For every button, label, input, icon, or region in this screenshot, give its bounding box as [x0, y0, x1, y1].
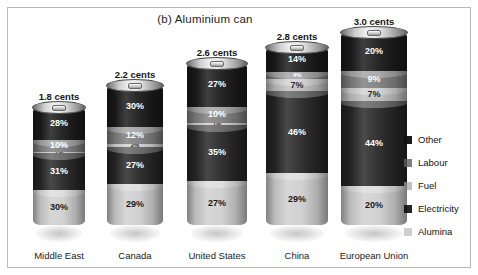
can-pull-tab-icon: [210, 61, 224, 67]
segment-fuel[interactable]: 7%: [341, 88, 407, 102]
segment-labour[interactable]: 12%: [107, 127, 163, 144]
segment-value-label: 35%: [208, 148, 226, 157]
plot-area: 1.8 cents28%10%1%31%30%Middle East2.2 ce…: [14, 26, 396, 244]
segment-value-label: 4%: [293, 72, 302, 78]
segment-alumina[interactable]: 30%: [33, 190, 85, 225]
segment-alumina[interactable]: 20%: [341, 186, 407, 225]
segment-alumina[interactable]: 29%: [107, 184, 163, 225]
can-pull-tab-icon: [367, 30, 381, 36]
segment-labour[interactable]: 9%: [341, 71, 407, 88]
legend-label: Other: [418, 134, 442, 145]
segment-electricity[interactable]: 27%: [107, 147, 163, 185]
bar-canada[interactable]: 2.2 cents30%12%2%27%29%Canada: [107, 82, 163, 244]
segment-value-label: 1%: [55, 152, 64, 153]
segment-value-label: 9%: [367, 75, 380, 84]
bar-shadow: [270, 225, 325, 242]
can-pull-tab-icon: [52, 105, 66, 111]
segment-electricity[interactable]: 46%: [266, 91, 328, 173]
can-lid: [32, 101, 86, 114]
bar-shadow: [191, 225, 244, 242]
segment-value-label: 46%: [288, 128, 306, 137]
segment-electricity[interactable]: 44%: [341, 101, 407, 186]
can-body: 20%9%7%44%20%: [341, 32, 407, 225]
segment-alumina[interactable]: 29%: [266, 173, 328, 225]
segment-value-label: 29%: [126, 200, 144, 209]
legend-label: Electricity: [418, 203, 459, 214]
segment-electricity[interactable]: 31%: [33, 153, 85, 190]
segment-labour[interactable]: 10%: [33, 140, 85, 152]
legend-label: Labour: [418, 157, 448, 168]
segment-value-label: 7%: [290, 81, 303, 90]
segment-value-label: 27%: [126, 161, 144, 170]
segment-labour[interactable]: 4%: [266, 72, 328, 79]
segment-value-label: 44%: [365, 139, 383, 148]
segment-value-label: 31%: [50, 167, 68, 176]
bar-united-states[interactable]: 2.6 cents27%10%1%35%27%United States: [187, 60, 247, 244]
chart-legend: OtherLabourFuelElectricityAlumina: [404, 128, 474, 243]
legend-swatch-icon: [404, 228, 412, 236]
segment-value-label: 2%: [131, 144, 140, 147]
segment-value-label: 20%: [365, 201, 383, 210]
legend-label: Alumina: [418, 226, 452, 237]
segment-alumina[interactable]: 27%: [187, 181, 247, 225]
can-body: 14%4%7%46%29%: [266, 47, 328, 225]
category-label: Middle East: [34, 250, 84, 261]
can-lid: [186, 57, 248, 70]
category-label: China: [285, 250, 310, 261]
segment-value-label: 30%: [50, 203, 68, 212]
segment-fuel[interactable]: 7%: [266, 79, 328, 91]
segment-electricity[interactable]: 35%: [187, 125, 247, 182]
can-lid: [106, 79, 164, 92]
bar-middle-east[interactable]: 1.8 cents28%10%1%31%30%Middle East: [33, 104, 85, 244]
bar-shadow: [110, 225, 159, 242]
can-body: 30%12%2%27%29%: [107, 85, 163, 225]
category-label: United States: [188, 250, 245, 261]
segment-value-label: 29%: [288, 195, 306, 204]
segment-value-label: 20%: [365, 47, 383, 56]
can-lid: [340, 26, 408, 39]
category-label: European Union: [340, 250, 409, 261]
segment-labour[interactable]: 10%: [187, 107, 247, 123]
legend-item-fuel[interactable]: Fuel: [404, 174, 474, 197]
segment-value-label: 27%: [208, 80, 226, 89]
segment-value-label: 10%: [50, 141, 68, 150]
can-body: 27%10%1%35%27%: [187, 63, 247, 225]
legend-item-other[interactable]: Other: [404, 128, 474, 151]
bar-shadow: [345, 225, 403, 242]
can-pull-tab-icon: [290, 45, 304, 51]
chart-figure: (b) Aluminium can 1.8 cents28%10%1%31%30…: [0, 0, 478, 275]
bar-shadow: [36, 225, 82, 242]
segment-value-label: 10%: [208, 110, 226, 119]
segment-value-label: 28%: [50, 119, 68, 128]
legend-item-electricity[interactable]: Electricity: [404, 197, 474, 220]
chart-title: (b) Aluminium can: [0, 13, 410, 25]
can-body: 28%10%1%31%30%: [33, 107, 85, 225]
segment-value-label: 12%: [126, 131, 144, 140]
segment-value-label: 7%: [367, 90, 380, 99]
legend-item-alumina[interactable]: Alumina: [404, 220, 474, 243]
segment-value-label: 14%: [288, 55, 306, 64]
legend-item-labour[interactable]: Labour: [404, 151, 474, 174]
can-lid: [265, 41, 329, 54]
category-label: Canada: [118, 250, 151, 261]
bar-european-union[interactable]: 3.0 cents20%9%7%44%20%European Union: [341, 29, 407, 244]
bar-china[interactable]: 2.8 cents14%4%7%46%29%China: [266, 44, 328, 244]
legend-label: Fuel: [418, 180, 436, 191]
segment-value-label: 1%: [213, 123, 222, 125]
segment-value-label: 27%: [208, 199, 226, 208]
segment-value-label: 30%: [126, 102, 144, 111]
can-pull-tab-icon: [128, 83, 142, 89]
